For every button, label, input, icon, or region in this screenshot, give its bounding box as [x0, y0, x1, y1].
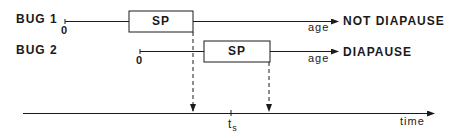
bug-1-origin-label: 0: [61, 24, 67, 36]
ts-label: ts: [228, 117, 238, 133]
bug-1-age-label: age: [308, 21, 329, 33]
time-axis-label: time: [400, 115, 425, 127]
bug-2-outcome: DIAPAUSE: [343, 45, 412, 59]
bug-1-outcome: NOT DIAPAUSE: [343, 14, 445, 28]
bug-2-label: BUG 2: [16, 43, 58, 57]
ts-label-sub: s: [232, 123, 238, 133]
bug-1-age-line: [65, 11, 338, 32]
bug-2-sp-box-label: SP: [204, 44, 270, 58]
bug-2-origin-label: 0: [136, 54, 142, 66]
bug-1-label: BUG 1: [16, 12, 58, 26]
bug-1-sp-box-label: SP: [129, 14, 193, 28]
bug-2-age-label: age: [308, 52, 329, 64]
